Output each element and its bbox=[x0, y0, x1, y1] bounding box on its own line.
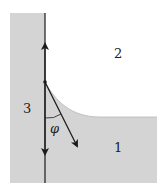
wall-region-3 bbox=[10, 13, 45, 183]
meniscus-diagram: 2 3 1 φ bbox=[0, 0, 164, 195]
label-region-2: 2 bbox=[114, 46, 122, 61]
label-region-1: 1 bbox=[114, 140, 122, 155]
liquid-region-1 bbox=[45, 82, 157, 183]
label-region-3: 3 bbox=[23, 101, 31, 116]
label-angle-phi: φ bbox=[50, 121, 60, 136]
contact-point bbox=[43, 80, 47, 84]
